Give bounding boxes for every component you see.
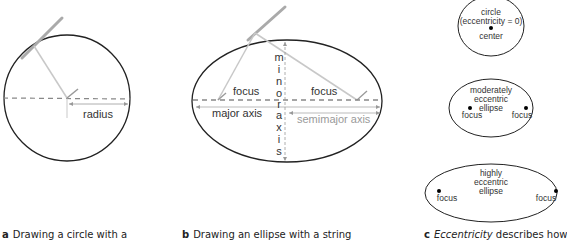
caption-c: cEccentricity describes how [424, 229, 567, 240]
svg-text:focus: focus [512, 110, 532, 120]
svg-text:ellipse: ellipse [479, 103, 503, 113]
panel-b-ellipse: focus focus major axis semimajor axis m … [192, 7, 382, 162]
panel-c-circle: circle (eccentricity = 0) center [458, 0, 524, 56]
svg-text:ellipse: ellipse [479, 186, 503, 196]
caption-a: aDrawing a circle with a [2, 229, 127, 240]
svg-text:s: s [276, 145, 282, 157]
focus-left-label: focus [233, 85, 260, 97]
caption-c-letter: c [424, 229, 430, 240]
caption-b-text: Drawing an ellipse with a string [193, 229, 351, 240]
caption-b-letter: b [182, 229, 189, 240]
minor-axis-label: m i n o r a x i s [274, 51, 283, 157]
svg-text:(eccentricity = 0): (eccentricity = 0) [460, 16, 523, 26]
panel-c-moderate-ellipse: moderately eccentric ellipse focus focus [449, 79, 533, 137]
major-axis-label: major axis [212, 107, 263, 119]
panel-a-circle: radius [3, 18, 131, 161]
svg-text:a: a [276, 109, 283, 121]
svg-text:focus: focus [536, 193, 556, 203]
caption-b: bDrawing an ellipse with a string [182, 229, 351, 240]
svg-text:focus: focus [437, 193, 457, 203]
semimajor-axis-label: semimajor axis [297, 113, 371, 125]
caption-c-italic: Eccentricity [434, 229, 493, 240]
svg-text:n: n [276, 75, 282, 87]
svg-text:i: i [278, 63, 280, 75]
svg-text:x: x [276, 121, 282, 133]
pencil-icon [22, 18, 62, 58]
radius-label: radius [83, 108, 113, 120]
pin-icon [67, 89, 78, 98]
svg-text:center: center [479, 31, 503, 41]
focus-right-label: focus [311, 85, 338, 97]
caption-a-text: Drawing a circle with a [13, 229, 127, 240]
panel-c-high-ellipse: highly eccentric ellipse focus focus [425, 164, 558, 222]
caption-c-text: describes how [496, 229, 567, 240]
caption-a-letter: a [2, 229, 9, 240]
svg-text:focus: focus [462, 110, 482, 120]
svg-text:m: m [274, 51, 283, 63]
svg-text:i: i [278, 133, 280, 145]
